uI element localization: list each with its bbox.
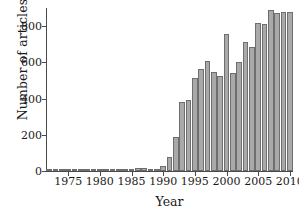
bar xyxy=(122,169,128,171)
bar xyxy=(46,169,52,171)
bar xyxy=(186,100,192,171)
bar xyxy=(173,137,179,171)
plot-area xyxy=(46,8,293,172)
bar-series xyxy=(47,8,293,171)
bar xyxy=(198,69,204,171)
y-axis-tick-mark xyxy=(42,62,46,63)
bar xyxy=(154,169,160,171)
y-axis-tick-mark xyxy=(42,135,46,136)
bar xyxy=(274,13,280,171)
bar xyxy=(65,169,71,171)
bar xyxy=(281,12,287,171)
bar xyxy=(78,169,84,171)
bar xyxy=(179,102,185,171)
y-axis-tick-mark xyxy=(42,171,46,172)
y-axis-tick-label: 400 xyxy=(16,94,42,105)
y-axis-tick-mark xyxy=(42,26,46,27)
y-axis-tick-label: 200 xyxy=(16,130,42,141)
bar xyxy=(249,47,255,171)
bar xyxy=(268,10,274,171)
bar xyxy=(72,169,78,171)
bar xyxy=(135,168,141,171)
bar xyxy=(224,34,230,171)
x-axis-tick-label: 2010 xyxy=(270,176,299,187)
chart-figure: Number of articles 0200400600800 1975198… xyxy=(0,0,299,216)
bar xyxy=(160,166,166,171)
bar xyxy=(211,72,217,171)
bar xyxy=(97,169,103,171)
y-axis-tick-mark xyxy=(42,99,46,100)
x-axis-title: Year xyxy=(46,194,293,209)
bar xyxy=(141,168,147,171)
bar xyxy=(230,73,236,171)
y-axis-tick-label: 0 xyxy=(16,166,42,177)
bar xyxy=(205,61,211,171)
bar xyxy=(287,12,293,171)
x-axis-tick-labels: 19751980198519901995200020052010 xyxy=(46,176,293,190)
bar xyxy=(110,169,116,171)
bar xyxy=(167,157,173,171)
bar xyxy=(53,169,59,171)
bar xyxy=(84,169,90,171)
bar xyxy=(243,42,249,171)
x-axis-line xyxy=(46,171,293,172)
bar xyxy=(59,169,65,171)
bar xyxy=(91,169,97,171)
bar xyxy=(255,23,261,172)
bar xyxy=(236,62,242,171)
y-axis-tick-labels: 0200400600800 xyxy=(14,0,42,216)
y-axis-tick-label: 800 xyxy=(16,21,42,32)
bar xyxy=(217,76,223,171)
y-axis-tick-label: 600 xyxy=(16,57,42,68)
bar xyxy=(116,169,122,171)
bar xyxy=(148,169,154,171)
bar xyxy=(192,78,198,171)
bar xyxy=(103,169,109,171)
bar xyxy=(262,24,268,171)
bar xyxy=(129,169,135,171)
